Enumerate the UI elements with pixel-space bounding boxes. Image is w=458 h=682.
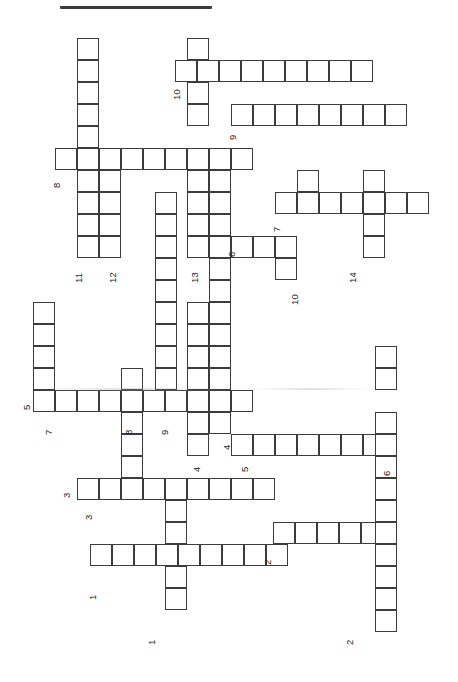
- crossword-cell[interactable]: [112, 544, 134, 566]
- crossword-cell[interactable]: [385, 104, 407, 126]
- crossword-cell[interactable]: [209, 214, 231, 236]
- crossword-cell[interactable]: [99, 214, 121, 236]
- crossword-cell[interactable]: [329, 60, 351, 82]
- crossword-cell[interactable]: [341, 192, 363, 214]
- crossword-cell[interactable]: [33, 324, 55, 346]
- crossword-cell[interactable]: [187, 82, 209, 104]
- crossword-cell[interactable]: [375, 544, 397, 566]
- crossword-cell[interactable]: [165, 478, 187, 500]
- crossword-cell[interactable]: [275, 104, 297, 126]
- crossword-cell[interactable]: [165, 566, 187, 588]
- crossword-cell[interactable]: [90, 544, 112, 566]
- crossword-cell[interactable]: [121, 434, 143, 456]
- crossword-cell[interactable]: [121, 148, 143, 170]
- crossword-cell[interactable]: [319, 434, 341, 456]
- crossword-cell[interactable]: [77, 38, 99, 60]
- crossword-cell[interactable]: [363, 170, 385, 192]
- crossword-cell[interactable]: [33, 302, 55, 324]
- crossword-cell[interactable]: [275, 236, 297, 258]
- crossword-cell[interactable]: [121, 478, 143, 500]
- crossword-cell[interactable]: [134, 544, 156, 566]
- crossword-cell[interactable]: [375, 368, 397, 390]
- crossword-cell[interactable]: [297, 104, 319, 126]
- crossword-cell[interactable]: [77, 148, 99, 170]
- crossword-cell[interactable]: [375, 412, 397, 434]
- crossword-cell[interactable]: [77, 478, 99, 500]
- crossword-cell[interactable]: [99, 390, 121, 412]
- crossword-cell[interactable]: [375, 346, 397, 368]
- crossword-cell[interactable]: [99, 478, 121, 500]
- crossword-cell[interactable]: [231, 478, 253, 500]
- crossword-cell[interactable]: [209, 412, 231, 434]
- crossword-cell[interactable]: [209, 192, 231, 214]
- crossword-cell[interactable]: [317, 522, 339, 544]
- crossword-cell[interactable]: [375, 588, 397, 610]
- crossword-cell[interactable]: [77, 82, 99, 104]
- crossword-cell[interactable]: [33, 390, 55, 412]
- crossword-cell[interactable]: [209, 478, 231, 500]
- crossword-cell[interactable]: [187, 148, 209, 170]
- crossword-cell[interactable]: [341, 434, 363, 456]
- crossword-cell[interactable]: [77, 236, 99, 258]
- crossword-cell[interactable]: [339, 522, 361, 544]
- crossword-cell[interactable]: [253, 236, 275, 258]
- crossword-cell[interactable]: [99, 236, 121, 258]
- crossword-cell[interactable]: [231, 390, 253, 412]
- crossword-cell[interactable]: [156, 544, 178, 566]
- crossword-cell[interactable]: [375, 434, 397, 456]
- crossword-cell[interactable]: [241, 60, 263, 82]
- crossword-cell[interactable]: [165, 390, 187, 412]
- crossword-cell[interactable]: [175, 60, 197, 82]
- crossword-cell[interactable]: [165, 148, 187, 170]
- crossword-cell[interactable]: [341, 104, 363, 126]
- crossword-cell[interactable]: [375, 522, 397, 544]
- crossword-cell[interactable]: [187, 192, 209, 214]
- crossword-cell[interactable]: [263, 60, 285, 82]
- crossword-cell[interactable]: [143, 390, 165, 412]
- crossword-cell[interactable]: [155, 368, 177, 390]
- crossword-cell[interactable]: [231, 104, 253, 126]
- crossword-cell[interactable]: [165, 522, 187, 544]
- crossword-cell[interactable]: [187, 236, 209, 258]
- crossword-cell[interactable]: [121, 456, 143, 478]
- crossword-cell[interactable]: [231, 434, 253, 456]
- crossword-cell[interactable]: [187, 324, 209, 346]
- crossword-cell[interactable]: [155, 324, 177, 346]
- crossword-cell[interactable]: [55, 390, 77, 412]
- crossword-cell[interactable]: [77, 170, 99, 192]
- crossword-cell[interactable]: [155, 192, 177, 214]
- crossword-cell[interactable]: [33, 346, 55, 368]
- crossword-cell[interactable]: [165, 500, 187, 522]
- crossword-cell[interactable]: [319, 104, 341, 126]
- crossword-cell[interactable]: [222, 544, 244, 566]
- crossword-cell[interactable]: [375, 610, 397, 632]
- crossword-cell[interactable]: [375, 500, 397, 522]
- crossword-cell[interactable]: [275, 192, 297, 214]
- crossword-grid[interactable]: [0, 0, 458, 682]
- crossword-cell[interactable]: [200, 544, 222, 566]
- crossword-cell[interactable]: [197, 60, 219, 82]
- crossword-cell[interactable]: [253, 434, 275, 456]
- crossword-cell[interactable]: [363, 236, 385, 258]
- crossword-cell[interactable]: [363, 214, 385, 236]
- crossword-cell[interactable]: [375, 566, 397, 588]
- crossword-cell[interactable]: [155, 346, 177, 368]
- crossword-cell[interactable]: [155, 280, 177, 302]
- crossword-cell[interactable]: [143, 478, 165, 500]
- crossword-cell[interactable]: [209, 324, 231, 346]
- crossword-cell[interactable]: [187, 302, 209, 324]
- crossword-cell[interactable]: [385, 192, 407, 214]
- crossword-cell[interactable]: [319, 192, 341, 214]
- crossword-cell[interactable]: [375, 478, 397, 500]
- crossword-cell[interactable]: [187, 214, 209, 236]
- crossword-cell[interactable]: [351, 60, 373, 82]
- crossword-cell[interactable]: [219, 60, 241, 82]
- crossword-cell[interactable]: [187, 38, 209, 60]
- crossword-cell[interactable]: [143, 148, 165, 170]
- crossword-cell[interactable]: [99, 170, 121, 192]
- crossword-cell[interactable]: [99, 192, 121, 214]
- crossword-cell[interactable]: [209, 390, 231, 412]
- crossword-cell[interactable]: [99, 148, 121, 170]
- crossword-cell[interactable]: [77, 60, 99, 82]
- crossword-cell[interactable]: [307, 60, 329, 82]
